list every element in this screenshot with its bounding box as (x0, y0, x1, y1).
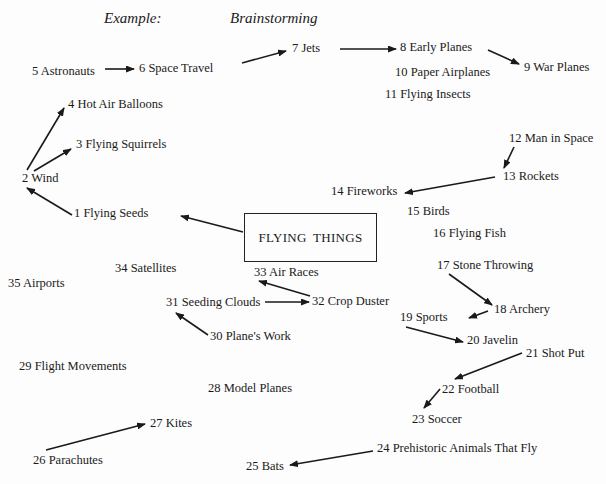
idea-node: 17 Stone Throwing (437, 258, 533, 272)
idea-node: 9 War Planes (524, 60, 589, 74)
idea-node: 16 Flying Fish (433, 226, 506, 240)
idea-node: 23 Soccer (412, 412, 462, 426)
arrow-icon (181, 216, 243, 232)
idea-node: 1 Flying Seeds (74, 206, 148, 220)
idea-node: 34 Satellites (115, 261, 176, 275)
idea-node: 4 Hot Air Balloons (68, 97, 163, 111)
idea-node: 32 Crop Duster (312, 294, 389, 308)
central-topic-label: FLYING THINGS (259, 230, 363, 246)
arrow-icon (449, 274, 492, 305)
arrow-icon (34, 149, 71, 171)
idea-node: 13 Rockets (503, 169, 559, 183)
idea-node: 28 Model Planes (208, 381, 292, 395)
idea-node: 6 Space Travel (139, 61, 213, 75)
arrow-icon (455, 353, 522, 379)
idea-node: 22 Football (442, 382, 499, 396)
idea-node: 26 Parachutes (33, 453, 103, 467)
idea-node: 25 Bats (246, 459, 284, 473)
idea-node: 29 Flight Movements (19, 359, 127, 373)
arrow-icon (469, 311, 488, 318)
arrow-icon (242, 51, 286, 63)
central-topic-box: FLYING THINGS (244, 213, 377, 262)
arrow-icon (406, 327, 463, 342)
idea-node: 14 Fireworks (331, 184, 397, 198)
heading-brainstorming: Brainstorming (230, 10, 318, 27)
idea-node: 35 Airports (8, 276, 65, 290)
idea-node: 21 Shot Put (526, 346, 584, 360)
arrow-icon (424, 389, 440, 408)
idea-node: 30 Plane's Work (210, 329, 291, 343)
idea-node: 11 Flying Insects (385, 87, 471, 101)
arrow-icon (27, 108, 64, 170)
idea-node: 7 Jets (292, 41, 320, 55)
arrow-icon (27, 188, 72, 215)
idea-node: 2 Wind (22, 171, 58, 185)
idea-node: 5 Astronauts (32, 64, 95, 78)
arrow-icon (504, 147, 514, 168)
arrow-icon (46, 424, 145, 450)
heading-example: Example: (104, 10, 161, 27)
idea-node: 33 Air Races (254, 265, 319, 279)
arrow-icon (176, 313, 208, 335)
idea-node: 10 Paper Airplanes (395, 65, 490, 79)
arrow-icon (488, 50, 519, 64)
brainstorm-diagram: Example: Brainstorming FLYING THINGS 1 F… (0, 0, 606, 484)
idea-node: 8 Early Planes (400, 40, 472, 54)
idea-node: 19 Sports (400, 310, 448, 324)
idea-node: 3 Flying Squirrels (76, 137, 166, 151)
idea-node: 12 Man in Space (509, 131, 593, 145)
idea-node: 18 Archery (494, 302, 550, 316)
idea-node: 20 Javelin (467, 333, 518, 347)
idea-node: 24 Prehistoric Animals That Fly (377, 441, 537, 455)
idea-node: 15 Birds (407, 204, 450, 218)
arrow-icon (259, 281, 310, 296)
idea-node: 31 Seeding Clouds (166, 295, 260, 309)
arrow-icon (290, 451, 373, 465)
arrow-icon (405, 177, 495, 193)
idea-node: 27 Kites (150, 416, 192, 430)
